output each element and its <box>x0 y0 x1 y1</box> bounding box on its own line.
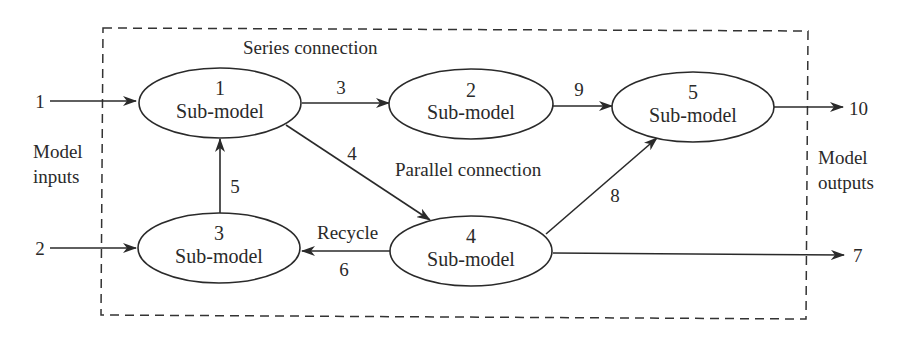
model-inputs-label-line2: inputs <box>33 166 79 187</box>
node-3-label: Sub-model <box>175 245 263 267</box>
stream-label-4: 4 <box>347 143 357 164</box>
stream-label-5: 5 <box>230 176 240 197</box>
node-4-label: Sub-model <box>427 248 515 270</box>
stream-label-7: 7 <box>853 245 863 266</box>
model-outputs-label-line1: Model <box>818 147 868 168</box>
model-inputs-label-line1: Model <box>33 141 83 162</box>
stream-label-6: 6 <box>339 259 349 280</box>
recycle-label: Recycle <box>317 222 378 243</box>
node-submodel-4: 4 Sub-model <box>390 216 552 286</box>
node-2-label: Sub-model <box>427 101 515 123</box>
stream-label-8: 8 <box>610 185 620 206</box>
parallel-connection-label: Parallel connection <box>395 159 542 180</box>
edge-stream-7 <box>553 253 844 255</box>
node-5-label: Sub-model <box>649 104 737 126</box>
model-structure-diagram: 1 Sub-model 2 Sub-model 5 Sub-model 3 Su… <box>0 0 913 340</box>
node-submodel-3: 3 Sub-model <box>138 213 300 283</box>
stream-label-3: 3 <box>336 77 346 98</box>
node-1-id: 1 <box>215 77 225 99</box>
node-submodel-5: 5 Sub-model <box>612 72 774 142</box>
node-3-id: 3 <box>214 222 224 244</box>
edge-stream-8 <box>546 138 657 234</box>
model-outputs-label-line2: outputs <box>818 172 874 193</box>
node-5-id: 5 <box>688 81 698 103</box>
node-1-label: Sub-model <box>176 100 264 122</box>
stream-label-1: 1 <box>35 91 45 112</box>
stream-label-9: 9 <box>574 79 584 100</box>
node-submodel-1: 1 Sub-model <box>139 68 301 138</box>
node-submodel-2: 2 Sub-model <box>389 69 553 139</box>
node-4-id: 4 <box>466 225 476 247</box>
series-connection-label: Series connection <box>243 37 378 58</box>
node-2-id: 2 <box>466 79 476 101</box>
stream-label-2: 2 <box>35 238 45 259</box>
stream-label-10: 10 <box>849 98 868 119</box>
